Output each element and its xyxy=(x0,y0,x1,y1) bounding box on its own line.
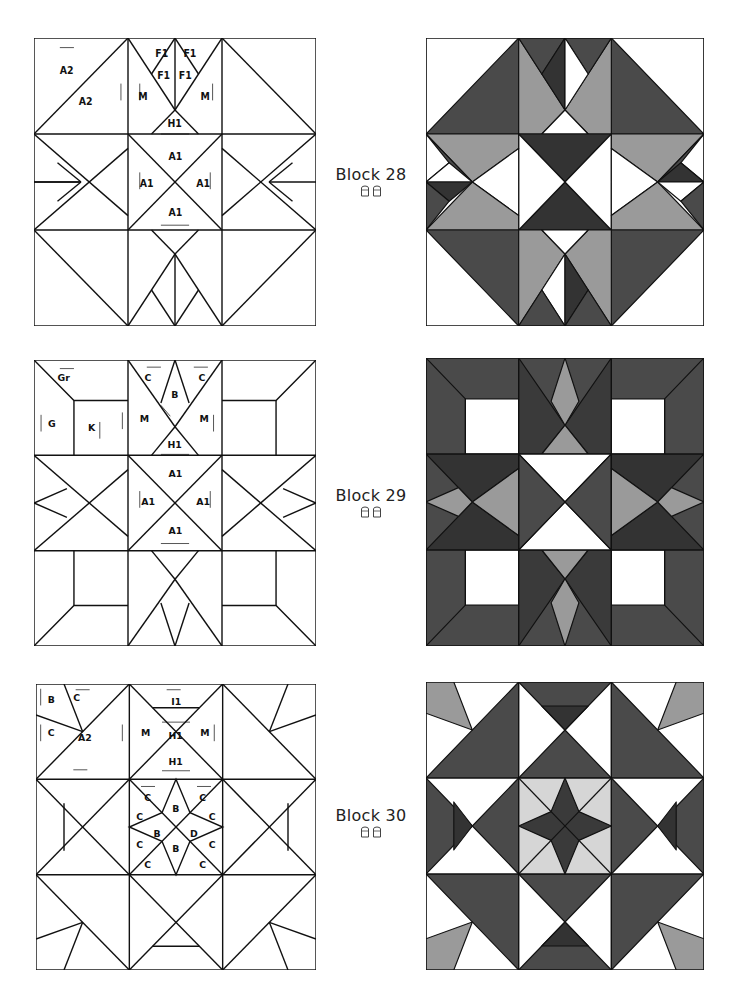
piece-label: A2 xyxy=(79,96,93,107)
block-30-diagram: B C C A2 I1 M M H1 H1 C C C C C C C C B … xyxy=(36,684,316,970)
block-28-caption: Block 28 xyxy=(326,165,416,197)
block-title: Block 29 xyxy=(326,486,416,505)
piece-label: H1 xyxy=(167,118,181,129)
piece-label: M xyxy=(140,413,149,424)
block-29-diagram: Gr G K C C B M M H1 A1 A1 A1 A1 xyxy=(34,360,316,646)
piece-label: F1 xyxy=(179,70,192,81)
piece-label: C xyxy=(136,839,143,850)
block-30-colored xyxy=(426,682,704,970)
block-28-diagram: A2 A2 F1 F1 F1 F1 M M H1 A1 A1 A1 A1 xyxy=(34,38,316,326)
piece-label: B xyxy=(154,827,161,838)
block-title: Block 30 xyxy=(326,806,416,825)
piece-label: A1 xyxy=(196,178,210,189)
piece-label: Gr xyxy=(58,372,71,383)
piece-label: A1 xyxy=(141,496,155,507)
difficulty-rating xyxy=(326,826,416,838)
piece-label: B xyxy=(48,694,55,705)
piece-label: H1 xyxy=(167,439,181,450)
piece-label: H1 xyxy=(169,756,183,767)
block-title: Block 28 xyxy=(326,165,416,184)
block-29-colored xyxy=(426,358,704,646)
piece-label: K xyxy=(88,422,96,433)
piece-label: H1 xyxy=(169,730,183,741)
piece-label: C xyxy=(209,811,216,822)
piece-label: M xyxy=(141,727,150,738)
piece-label: C xyxy=(136,811,143,822)
piece-label: C xyxy=(48,727,55,738)
piece-label: B xyxy=(172,803,179,814)
piece-label: G xyxy=(48,418,56,429)
piece-label: C xyxy=(209,839,216,850)
piece-label: C xyxy=(73,692,80,703)
piece-label: A1 xyxy=(140,178,154,189)
piece-label: A1 xyxy=(168,468,182,479)
piece-label: A2 xyxy=(60,65,74,76)
piece-label: C xyxy=(199,792,206,803)
thimble-icon xyxy=(372,826,382,838)
piece-label: B xyxy=(171,389,178,400)
block-30-caption: Block 30 xyxy=(326,806,416,838)
thimble-icon xyxy=(372,506,382,518)
piece-label: A1 xyxy=(168,207,182,218)
piece-label: A1 xyxy=(168,525,182,536)
block-29-caption: Block 29 xyxy=(326,486,416,518)
piece-label: F1 xyxy=(155,48,168,59)
difficulty-rating xyxy=(326,185,416,197)
thimble-icon xyxy=(360,506,370,518)
piece-label: B xyxy=(172,843,179,854)
piece-label: C xyxy=(144,858,151,869)
piece-label: C xyxy=(144,792,151,803)
thimble-icon xyxy=(372,185,382,197)
piece-label: C xyxy=(199,858,206,869)
piece-label: I1 xyxy=(171,696,181,707)
piece-label: C xyxy=(144,372,151,383)
piece-label: A1 xyxy=(196,496,210,507)
block-28-colored xyxy=(426,38,704,326)
difficulty-rating xyxy=(326,506,416,518)
piece-label: F1 xyxy=(157,70,170,81)
thimble-icon xyxy=(360,826,370,838)
piece-label: F1 xyxy=(183,48,196,59)
piece-label: A2 xyxy=(78,732,92,743)
piece-label: M xyxy=(199,413,208,424)
piece-label: M xyxy=(200,727,209,738)
thimble-icon xyxy=(360,185,370,197)
piece-label: C xyxy=(199,372,206,383)
piece-label: D xyxy=(190,827,198,838)
piece-label: M xyxy=(200,91,209,102)
piece-label: A1 xyxy=(168,151,182,162)
